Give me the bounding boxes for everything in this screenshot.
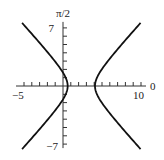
y-max-label: 7 — [49, 22, 55, 34]
hyperbola-chart: π/2 7 −7 −5 10 0 — [0, 0, 164, 160]
x-min-label: −5 — [12, 89, 24, 101]
x-max-label: 10 — [133, 89, 145, 101]
polar-half-pi-label: π/2 — [56, 7, 70, 19]
y-min-label: −7 — [46, 140, 58, 152]
polar-zero-label: 0 — [150, 80, 156, 92]
